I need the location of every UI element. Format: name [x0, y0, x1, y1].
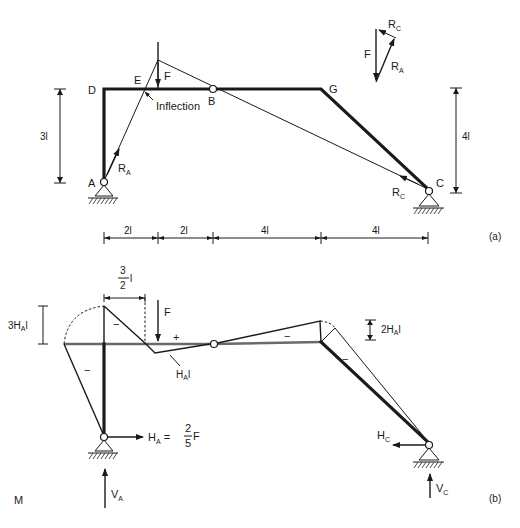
- sign-minus-4: −: [342, 353, 348, 365]
- support-C: [413, 194, 444, 214]
- svg-text:F: F: [364, 48, 371, 60]
- moment-arc-right: [320, 321, 335, 328]
- dimension-2HA-l: 2HAl: [365, 320, 401, 340]
- dimension-spans: 2l 2l 4l 4l: [104, 225, 428, 244]
- beam-baseline-right: [213, 342, 321, 344]
- moment-outline-right-beam: [213, 321, 321, 344]
- label-HC: HC: [377, 429, 390, 443]
- dimension-height-left: 3l: [40, 89, 66, 183]
- node-label-D: D: [88, 84, 96, 96]
- node-label-C: C: [436, 177, 444, 189]
- label-RC: RC: [392, 186, 405, 200]
- line-of-action-RC: [158, 60, 428, 189]
- svg-text:RA: RA: [391, 60, 404, 74]
- part-tag-a: (a): [489, 231, 501, 242]
- svg-text:3HAl: 3HAl: [8, 320, 28, 332]
- svg-text:2l: 2l: [180, 225, 188, 236]
- dimension-3HA-l: 3HAl: [8, 306, 48, 344]
- svg-text:2: 2: [120, 280, 126, 291]
- label-RA: RA: [118, 162, 131, 176]
- svg-text:l: l: [130, 273, 132, 284]
- svg-text:3: 3: [120, 265, 126, 276]
- node-label-B: B: [208, 95, 215, 107]
- svg-text:2l: 2l: [124, 225, 132, 236]
- force-triangle: F RA RC: [364, 18, 404, 82]
- support-A-b: [88, 440, 118, 459]
- svg-text:4l: 4l: [462, 131, 470, 142]
- support-C-b: [413, 448, 444, 468]
- moment-outline-triangle: [104, 306, 210, 353]
- label-VC: VC: [436, 482, 448, 496]
- diagram-label-M: M: [14, 494, 23, 506]
- kink-pointer: [170, 355, 180, 366]
- svg-text:4l: 4l: [372, 225, 380, 236]
- label-F-b: F: [164, 306, 171, 318]
- moment-outline-column: [64, 344, 104, 436]
- label-HA-den: 5: [185, 437, 191, 449]
- sign-minus-1: −: [113, 318, 119, 330]
- part-tag-b: (b): [489, 493, 501, 504]
- frame-diagram-a: F: [40, 18, 501, 244]
- node-label-G: G: [329, 83, 338, 95]
- label-HA: HA=: [148, 431, 170, 445]
- structural-frame-figure: F: [0, 0, 520, 528]
- moment-outline-right-member: [335, 328, 429, 443]
- label-HA-F: F: [193, 430, 200, 442]
- label-kink: HAl: [176, 369, 190, 381]
- moment-cross-tick: [321, 328, 335, 342]
- svg-text:RC: RC: [388, 18, 401, 32]
- label-HA-num: 2: [185, 422, 191, 434]
- node-label-A: A: [88, 177, 96, 189]
- dimension-three-halves: 3 2 l: [104, 265, 145, 302]
- sign-plus: +: [173, 331, 179, 343]
- node-label-E: E: [134, 74, 141, 86]
- hinge-B-b: [211, 341, 218, 348]
- dimension-height-right: 4l: [450, 88, 470, 193]
- member-GC: [321, 342, 429, 443]
- label-VA: VA: [111, 488, 123, 502]
- sign-minus-2: −: [84, 364, 90, 376]
- svg-text:4l: 4l: [261, 225, 269, 236]
- moment-diagram-b: − + − − − F HAl 3 2 l 3HAl: [8, 265, 501, 508]
- sign-minus-3: −: [284, 330, 290, 342]
- label-F: F: [164, 70, 171, 82]
- inflection-label: Inflection: [156, 100, 200, 112]
- svg-text:3l: 3l: [40, 131, 48, 142]
- moment-arc-corner: [64, 306, 104, 344]
- inflection-pointer: [145, 92, 153, 100]
- svg-text:2HAl: 2HAl: [381, 324, 401, 336]
- hinge-B: [210, 86, 217, 93]
